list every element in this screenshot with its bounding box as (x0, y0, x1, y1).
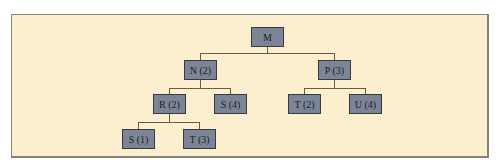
node-u: U (4) (349, 94, 382, 114)
connector-n-bar (169, 88, 231, 89)
node-t3: T (3) (183, 129, 216, 149)
node-s1: S (1) (122, 129, 155, 149)
node-m: M (251, 27, 284, 47)
diagram-frame (11, 14, 489, 158)
connector-r-bar (138, 122, 200, 123)
connector-to-s1 (138, 122, 139, 129)
connector-m-bar (200, 53, 335, 54)
connector-to-t3 (199, 122, 200, 129)
connector-p-bar (304, 88, 366, 89)
node-p: P (3) (318, 60, 351, 80)
node-t2: T (2) (288, 94, 321, 114)
node-r: R (2) (153, 94, 186, 114)
node-s4: S (4) (214, 94, 247, 114)
connector-to-n (200, 53, 201, 60)
node-n: N (2) (184, 60, 217, 80)
connector-to-p (334, 53, 335, 60)
